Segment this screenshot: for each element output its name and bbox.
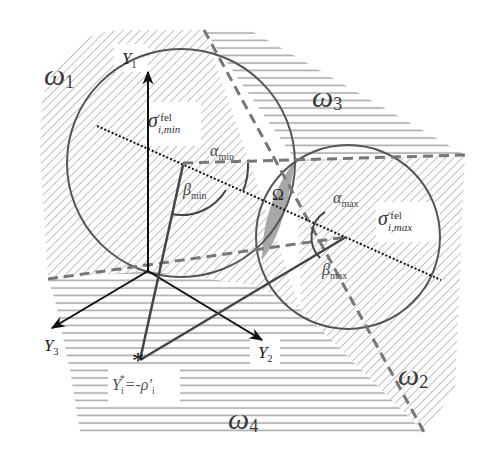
label-omega4: ω4: [228, 404, 258, 435]
label-beta-max: βmax: [322, 262, 347, 281]
label-sigma-max: σʹfeli,max: [378, 208, 412, 233]
label-sigma-min: σʹfeli,min: [148, 110, 180, 135]
label-alpha-max: αmax: [333, 190, 359, 209]
label-axis-y3: Y3: [44, 337, 58, 357]
marker-ystar: *: [132, 348, 144, 372]
diagram-canvas: ω1 ω3 ω2 ω4 Y1 Y3 Y2 σʹfeli,min σʹfeli,m…: [0, 0, 491, 466]
label-intersection-omega: Ω: [272, 187, 284, 203]
label-ystar: Yi*=-ρʹi: [112, 374, 155, 396]
label-omega1: ω1: [44, 60, 74, 91]
label-alpha-min: αmin: [210, 143, 234, 162]
label-axis-y1: Y1: [122, 50, 136, 70]
label-omega3: ω3: [312, 82, 342, 113]
label-beta-min: βmin: [183, 182, 207, 201]
label-axis-y2: Y2: [258, 344, 272, 364]
label-omega2: ω2: [398, 360, 428, 391]
